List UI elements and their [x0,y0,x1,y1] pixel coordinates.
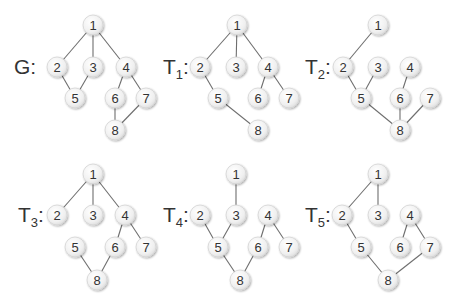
node-label: 8 [93,273,100,288]
node-4: 4 [400,205,420,225]
node-5: 5 [351,237,371,257]
node-label: 6 [396,91,403,106]
graph-label: T2: [305,55,331,82]
node-1: 1 [83,164,103,184]
node-6: 6 [105,237,125,257]
node-4: 4 [400,57,420,77]
node-2: 2 [47,205,67,225]
node-8: 8 [87,270,107,290]
node-label: 3 [89,208,96,223]
node-label: 6 [111,240,118,255]
node-label: 8 [254,123,261,138]
node-7: 7 [279,88,299,108]
node-1: 1 [83,15,103,35]
node-label: 3 [232,208,239,223]
node-6: 6 [390,88,410,108]
graph-label: T5: [305,203,331,230]
node-1: 1 [368,15,388,35]
node-5: 5 [208,88,228,108]
node-label: 6 [396,240,403,255]
node-3: 3 [83,57,103,77]
node-label: 5 [214,240,221,255]
node-7: 7 [136,88,156,108]
node-3: 3 [368,205,388,225]
node-6: 6 [390,237,410,257]
node-5: 5 [351,88,371,108]
graph-t5: T5:12345678 [305,164,440,290]
node-4: 4 [115,205,135,225]
graph-t4: T4:12345678 [163,164,299,290]
node-5: 5 [208,237,228,257]
node-3: 3 [226,205,246,225]
node-label: 8 [111,123,118,138]
graph-label: T1: [163,55,189,82]
graph-t3: T3:12345678 [18,164,156,290]
node-label: 7 [142,240,149,255]
graph-t2: T2:12345678 [305,15,440,140]
node-label: 4 [121,208,128,223]
node-3: 3 [226,57,246,77]
node-label: 2 [53,208,60,223]
node-label: 3 [89,60,96,75]
node-label: 7 [285,240,292,255]
node-label: 7 [285,91,292,106]
node-5: 5 [65,237,85,257]
node-label: 8 [396,123,403,138]
node-2: 2 [333,57,353,77]
node-1: 1 [226,164,246,184]
node-label: 5 [357,91,364,106]
node-8: 8 [105,120,125,140]
node-7: 7 [420,237,440,257]
node-label: 7 [142,91,149,106]
node-3: 3 [368,57,388,77]
node-7: 7 [420,88,440,108]
node-2: 2 [47,57,67,77]
node-6: 6 [248,88,268,108]
node-label: 1 [374,167,381,182]
node-label: 5 [357,240,364,255]
node-5: 5 [65,88,85,108]
node-6: 6 [105,88,125,108]
graph-label: T4: [163,203,189,230]
node-4: 4 [258,57,278,77]
node-8: 8 [248,120,268,140]
node-label: 2 [196,60,203,75]
node-7: 7 [279,237,299,257]
graph-label: G: [14,55,36,78]
node-label: 8 [236,273,243,288]
node-label: 4 [264,208,271,223]
node-label: 8 [384,273,391,288]
node-4: 4 [116,57,136,77]
node-label: 7 [426,91,433,106]
node-label: 1 [233,18,240,33]
node-label: 6 [111,91,118,106]
node-2: 2 [332,205,352,225]
node-8: 8 [390,120,410,140]
node-label: 4 [406,208,413,223]
node-2: 2 [190,205,210,225]
node-label: 1 [89,167,96,182]
node-label: 2 [338,208,345,223]
node-label: 7 [426,240,433,255]
node-7: 7 [136,237,156,257]
node-label: 3 [232,60,239,75]
node-label: 3 [374,60,381,75]
node-label: 1 [89,18,96,33]
node-2: 2 [190,57,210,77]
node-label: 5 [71,91,78,106]
node-label: 3 [374,208,381,223]
graph-label: T3: [18,203,44,230]
spanning-trees-diagram: G:12345678T1:12345678T2:12345678T3:12345… [0,0,459,305]
graph-g: G:12345678 [14,15,156,140]
node-label: 2 [53,60,60,75]
node-1: 1 [227,15,247,35]
node-label: 4 [122,60,129,75]
node-label: 4 [406,60,413,75]
node-8: 8 [378,270,398,290]
node-label: 6 [254,91,261,106]
node-4: 4 [258,205,278,225]
node-label: 6 [254,240,261,255]
node-label: 1 [232,167,239,182]
node-label: 5 [214,91,221,106]
node-6: 6 [248,237,268,257]
